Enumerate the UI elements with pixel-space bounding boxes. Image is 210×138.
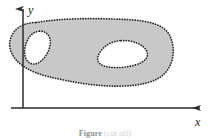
shaded-region — [0, 0, 210, 138]
x-axis-label: x — [195, 116, 200, 128]
figure-container: y x Figure (cut off) — [0, 0, 210, 138]
figure-caption-text: (cut off) — [104, 129, 131, 138]
figure-caption-label: Figure — [79, 129, 102, 138]
y-axis-label: y — [28, 4, 33, 16]
region-diagram-svg — [0, 0, 210, 138]
figure-caption: Figure (cut off) — [0, 129, 210, 138]
